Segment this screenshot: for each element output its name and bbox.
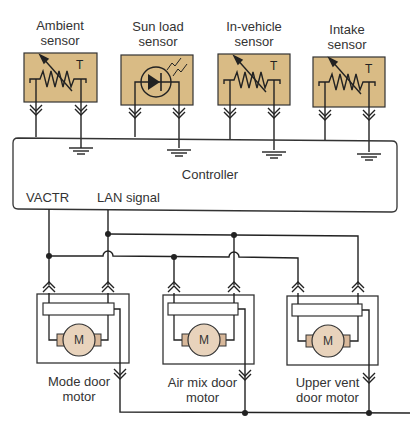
label-line: Upper vent [285,375,370,390]
ambient-sensor-label: Ambient sensor [20,18,100,48]
label-line: sensor [118,34,198,49]
in-vehicle-sensor-label: In-vehicle sensor [214,19,294,49]
svg-text:T: T [76,58,84,72]
sun-load-sensor [121,55,193,156]
label-line: sensor [307,37,387,52]
label-line: motor [38,389,120,404]
vactr-pin-label: VACTR [26,190,69,205]
wiring-diagram: T T T [0,0,418,423]
label-line: sensor [20,33,100,48]
mode-door-motor-label: Mode door motor [38,374,120,404]
label-line: sensor [214,34,294,49]
svg-text:T: T [365,62,373,76]
in-vehicle-sensor: T [218,54,290,158]
label-line: Ambient [20,18,100,33]
upper-vent-door-motor-label: Upper vent door motor [285,375,370,405]
label-line: door motor [285,390,370,405]
intake-sensor-label: Intake sensor [307,22,387,52]
controller-label: Controller [160,167,260,182]
label-line: Mode door [38,374,120,389]
motor-symbol: M [194,333,214,348]
motor-symbol: M [318,334,338,349]
air-mix-door-motor-label: Air mix door motor [160,375,245,405]
motor-symbol: M [69,333,89,348]
svg-text:T: T [270,59,278,73]
sun-load-sensor-label: Sun load sensor [118,19,198,49]
label-line: In-vehicle [214,19,294,34]
label-line: motor [160,390,245,405]
label-line: Air mix door [160,375,245,390]
label-line: Sun load [118,19,198,34]
lan-signal-pin-label: LAN signal [97,190,160,205]
label-line: Intake [307,22,387,37]
intake-sensor: T [313,57,385,160]
